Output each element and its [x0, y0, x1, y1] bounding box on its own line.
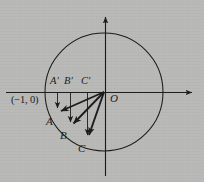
label-a-prime: A′: [50, 76, 59, 87]
label-a: A: [46, 116, 53, 127]
label-b: B: [60, 130, 67, 141]
label-c-prime: C′: [81, 76, 90, 87]
label-c: C: [78, 143, 85, 154]
label-origin: O: [110, 93, 118, 104]
label-left-intercept: (−1, 0): [11, 95, 38, 106]
vectors-group: [61, 92, 104, 135]
diagram-svg: [0, 0, 204, 182]
figure-canvas: A′ B′ C′ (−1, 0) O A B C: [0, 0, 204, 182]
label-b-prime: B′: [64, 76, 73, 87]
